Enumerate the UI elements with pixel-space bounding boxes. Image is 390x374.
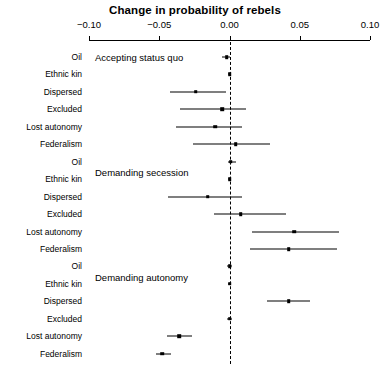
group-label: Accepting status quo <box>95 52 183 63</box>
row-label: Ethnic kin <box>0 279 82 289</box>
confidence-interval <box>250 248 337 249</box>
group-label: Demanding secession <box>95 167 188 178</box>
x-tick-mark <box>300 36 301 40</box>
estimate-point <box>206 195 210 199</box>
x-tick-label: 0.10 <box>361 19 380 30</box>
row-label: Lost autonomy <box>0 122 82 132</box>
row-label: Oil <box>0 261 82 271</box>
estimate-point <box>228 282 232 286</box>
group-label: Demanding autonomy <box>95 271 188 282</box>
estimate-point <box>229 160 233 164</box>
estimate-point <box>287 247 291 251</box>
x-tick-mark <box>370 36 371 40</box>
estimate-point <box>228 73 232 77</box>
estimate-point <box>287 300 291 304</box>
x-tick-label: −0.10 <box>77 19 101 30</box>
x-tick-mark <box>159 36 160 40</box>
confidence-interval <box>168 196 242 197</box>
estimate-point <box>221 108 225 112</box>
row-label: Federalism <box>0 139 82 149</box>
row-label: Oil <box>0 157 82 167</box>
confidence-interval <box>180 109 245 110</box>
row-label: Dispersed <box>0 192 82 202</box>
row-label: Lost autonomy <box>0 227 82 237</box>
forest-plot: Change in probability of rebels −0.10−0.… <box>0 0 390 374</box>
estimate-point <box>228 317 232 321</box>
row-label: Oil <box>0 52 82 62</box>
row-label: Ethnic kin <box>0 69 82 79</box>
estimate-point <box>228 177 232 181</box>
row-label: Excluded <box>0 209 82 219</box>
confidence-interval <box>176 126 242 127</box>
estimate-point <box>292 230 296 234</box>
x-tick-label: −0.05 <box>147 19 171 30</box>
confidence-interval <box>170 91 225 92</box>
estimate-point <box>234 142 238 146</box>
zero-line <box>230 42 231 364</box>
confidence-interval <box>214 214 286 215</box>
chart-title: Change in probability of rebels <box>0 4 390 16</box>
x-axis-line <box>89 40 370 41</box>
confidence-interval <box>193 144 270 145</box>
estimate-point <box>177 334 181 338</box>
x-tick-mark <box>230 36 231 40</box>
estimate-point <box>239 212 243 216</box>
estimate-point <box>225 55 229 59</box>
row-label: Lost autonomy <box>0 331 82 341</box>
estimate-point <box>228 265 232 269</box>
estimate-point <box>160 352 164 356</box>
row-label: Dispersed <box>0 87 82 97</box>
x-tick-label: 0.05 <box>291 19 310 30</box>
row-label: Federalism <box>0 244 82 254</box>
x-tick-mark <box>89 36 90 40</box>
estimate-point <box>194 90 198 94</box>
row-label: Dispersed <box>0 296 82 306</box>
row-label: Ethnic kin <box>0 174 82 184</box>
row-label: Excluded <box>0 104 82 114</box>
row-label: Federalism <box>0 349 82 359</box>
x-tick-label: 0.00 <box>220 19 239 30</box>
estimate-point <box>214 125 218 129</box>
row-label: Excluded <box>0 314 82 324</box>
